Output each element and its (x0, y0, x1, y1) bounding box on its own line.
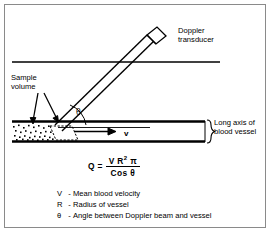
legend-dash: - (66, 200, 73, 209)
transducer-body (147, 27, 166, 44)
label-sample-volume-line2: volume (11, 82, 35, 91)
equation-numerator-exponent: 2 (124, 155, 128, 161)
legend-row: V-Mean blood velocity (57, 189, 211, 200)
legend-symbol: θ (57, 211, 66, 220)
equation-denominator: Cos θ (108, 168, 139, 178)
flow-equation: Q = V R2 π Cos θ (88, 155, 140, 178)
legend-text: Radius of vessel (73, 200, 129, 209)
legend-symbol: V (57, 189, 66, 198)
label-doppler-transducer: Dopplertransducer (178, 27, 214, 44)
sample-volume-stipple (13, 125, 54, 142)
label-long-axis-blood-vessel: Long axis ofblood vessel (214, 119, 256, 136)
velocity-arrow (74, 128, 116, 135)
figure-page: Dopplertransducer Samplevolume Long axis… (0, 0, 276, 236)
legend-dash: - (66, 211, 73, 220)
equation-numerator: V R2 π (106, 155, 140, 166)
equation-left-hand-side: Q = (88, 161, 103, 171)
label-doppler-transducer-line2: transducer (178, 35, 214, 44)
sample-volume-leader-arrows (30, 93, 58, 124)
legend-text: Angle between Doppler beam and vessel (73, 211, 211, 220)
label-sample-volume: Samplevolume (11, 74, 37, 91)
equation-numerator-pi: π (130, 156, 137, 166)
symbol-legend: V-Mean blood velocity R-Radius of vessel… (57, 189, 211, 222)
legend-symbol: R (57, 200, 66, 209)
legend-dash: - (66, 189, 73, 198)
label-theta-symbol: θ (76, 108, 81, 117)
legend-row: θ-Angle between Doppler beam and vessel (57, 211, 211, 222)
legend-text: Mean blood velocity (73, 189, 140, 198)
label-long-axis-line2: blood vessel (214, 127, 256, 136)
equation-numerator-base: V R (109, 156, 124, 166)
doppler-beam-line-left (55, 35, 147, 125)
equation-fraction: V R2 π Cos θ (106, 155, 140, 178)
label-velocity-v: v (124, 130, 128, 139)
legend-row: R-Radius of vessel (57, 200, 211, 211)
